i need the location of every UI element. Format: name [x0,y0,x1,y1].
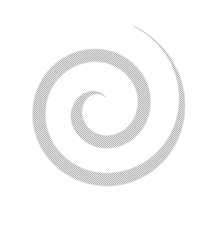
spiral-graphic [0,0,222,227]
spiral-image-canvas: Grey halftone spiral [0,0,222,227]
